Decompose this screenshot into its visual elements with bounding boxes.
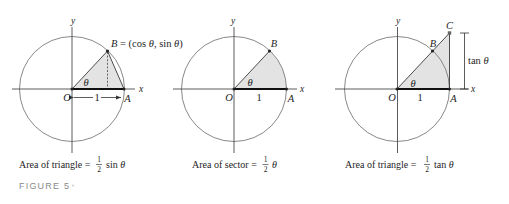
point-A-label: A	[287, 93, 295, 104]
point-O-dot	[233, 88, 236, 91]
caption-triangle-sin: Area of triangle = 1 2 sin θ	[19, 155, 125, 174]
point-A-label: A	[123, 93, 131, 104]
point-B-dot	[431, 49, 434, 52]
point-O-dot	[396, 88, 399, 91]
point-O-label: O	[388, 92, 396, 103]
point-B-dot	[106, 49, 109, 52]
angle-theta-label: θ	[83, 77, 88, 88]
b-sep: , sin	[154, 38, 174, 49]
radius-label: 1	[256, 92, 261, 103]
x-axis-label: x	[299, 84, 305, 94]
caption-function: tan θ	[434, 159, 454, 170]
b-close: )	[179, 38, 183, 50]
y-axis-label: y	[70, 16, 76, 26]
point-O-dot	[71, 88, 74, 91]
caption-variable: θ	[272, 159, 277, 170]
fraction-denominator: 2	[425, 165, 429, 174]
caption-sector: Area of sector = 1 2 θ	[192, 155, 277, 174]
point-O-label: O	[63, 92, 71, 103]
point-B-label: B	[271, 38, 278, 49]
fraction-denominator: 2	[264, 165, 268, 174]
x-axis-label: x	[138, 84, 144, 94]
point-O-label: O	[225, 92, 233, 103]
panel-triangle-sin: y x O A 1 θ B = (cos θ, sin θ) Area of t…	[12, 16, 183, 174]
caption-text: Area of triangle =	[345, 159, 419, 170]
figure-5-diagram: y x O A 1 θ B = (cos θ, sin θ) Area of t…	[0, 0, 509, 204]
caption-text: Area of triangle =	[19, 159, 93, 170]
point-B-dot	[268, 49, 271, 52]
fraction-numerator: 1	[425, 155, 429, 164]
angle-theta-label: θ	[410, 78, 415, 89]
point-C-dot	[448, 31, 451, 34]
point-A-dot	[285, 88, 288, 91]
point-A-dot	[448, 88, 451, 91]
point-C-label: C	[446, 20, 454, 31]
tan-theta-label: tan θ	[468, 55, 489, 66]
caption-function: sin θ	[106, 159, 125, 170]
caption-triangle-tan: Area of triangle = 1 2 tan θ	[345, 155, 454, 174]
fraction-numerator: 1	[264, 155, 268, 164]
caption-text: Area of sector =	[192, 159, 259, 170]
point-B-coordinates-label: B = (cos θ, sin θ)	[111, 38, 183, 50]
fraction-numerator: 1	[97, 155, 101, 164]
angle-theta-label: θ	[247, 77, 252, 88]
panel-triangle-tan: tan θ y x O A 1 θ B C Area of triangle =…	[335, 16, 489, 174]
figure-label: FIGURE 5	[19, 181, 70, 191]
figure-label-dot	[72, 185, 74, 187]
shaded-sector	[234, 51, 287, 89]
x-axis-label: x	[470, 84, 476, 94]
y-axis-label: y	[230, 16, 236, 26]
point-B-label: B	[430, 38, 437, 49]
fraction-denominator: 2	[97, 165, 101, 174]
b-eq: = (cos	[117, 38, 148, 50]
panel-sector: y x O A 1 θ B Area of sector = 1 2 θ	[173, 16, 305, 174]
point-A-dot	[123, 88, 126, 91]
radius-label: 1	[417, 92, 422, 103]
y-axis-label: y	[395, 16, 401, 26]
radius-label: 1	[94, 92, 99, 103]
point-A-label: A	[449, 93, 457, 104]
